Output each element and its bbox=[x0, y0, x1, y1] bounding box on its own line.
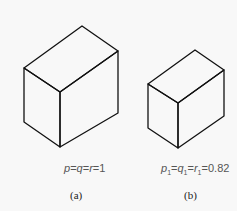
formula-b: p1=q1=r1=0.82 bbox=[161, 162, 229, 176]
cube-b-top-face bbox=[148, 50, 224, 103]
cube-b-left-face bbox=[148, 84, 178, 148]
caption-a: (a) bbox=[70, 189, 82, 201]
formula-a: p=q=r=1 bbox=[64, 162, 105, 174]
isometric-figure: p=q=r=1 (a) p1=q1=r1=0.82 (b) bbox=[0, 0, 237, 211]
cube-a bbox=[24, 26, 118, 147]
value: 0.82 bbox=[208, 162, 229, 174]
value: 1 bbox=[99, 162, 105, 174]
caption-b: (b) bbox=[184, 189, 197, 201]
cube-a-right-face bbox=[60, 51, 118, 147]
cube-a-left-face bbox=[24, 68, 60, 147]
cube-b bbox=[148, 50, 224, 148]
cubes-drawing bbox=[0, 0, 237, 211]
cube-b-right-face bbox=[178, 70, 224, 148]
cube-a-top-face bbox=[24, 26, 118, 92]
